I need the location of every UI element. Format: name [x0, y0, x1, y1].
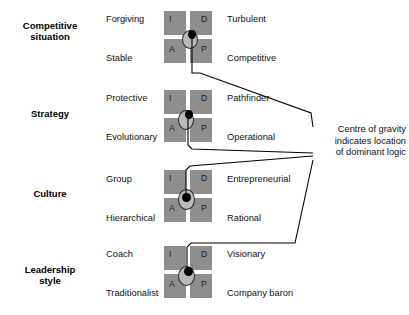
quadrant-label-p-row3: P — [201, 204, 207, 213]
pole-right-bottom-row2: Operational — [227, 132, 275, 143]
annotation-centre-of-gravity: Centre of gravity indicates location of … — [300, 124, 406, 159]
pole-right-top-row3: Entrepreneurial — [227, 174, 291, 185]
quadrant-label-a-row3: A — [169, 204, 175, 213]
centre-of-gravity-dot-row3 — [182, 193, 191, 202]
row-label-line1: Competitive — [2, 20, 98, 31]
quadrant-label-d-row4: D — [201, 250, 207, 259]
quadrant-label-a-row1: A — [169, 45, 175, 54]
row-label-competitive-situation: Competitive situation — [2, 20, 98, 42]
diagram-canvas: Competitive situation Forgiving Stable I… — [0, 0, 409, 315]
quadrant-label-d-row2: D — [201, 94, 207, 103]
quadrant-label-a-row4: A — [169, 280, 175, 289]
quadrant-label-p-row4: P — [201, 280, 207, 289]
pole-left-bottom-row2: Evolutionary — [106, 132, 157, 143]
pole-left-bottom-row3: Hierarchical — [106, 213, 155, 224]
pole-left-top-row2: Protective — [106, 93, 147, 104]
quadrant-label-d-row1: D — [201, 15, 207, 24]
annotation-line-1: Centre of gravity — [300, 124, 406, 136]
quadrant-label-d-row3: D — [201, 174, 207, 183]
row-label-culture: Culture — [2, 188, 98, 199]
pole-left-top-row1: Forgiving — [106, 14, 144, 25]
quadrant-label-a-row2: A — [169, 124, 175, 133]
quadrant-label-i-row2: I — [169, 94, 171, 103]
quadrant-square-row1: I D A P — [164, 11, 212, 63]
quadrant-label-p-row1: P — [201, 45, 207, 54]
pole-left-bottom-row1: Stable — [106, 53, 132, 64]
row-label-line1: Strategy — [2, 108, 98, 119]
pole-right-bottom-row4: Company baron — [227, 288, 293, 299]
annotation-line-2: indicates location — [300, 136, 406, 148]
pole-left-top-row3: Group — [106, 174, 132, 185]
row-label-line1: Leadership — [2, 264, 98, 275]
pole-right-top-row4: Visionary — [227, 249, 265, 260]
quadrant-label-i-row3: I — [169, 174, 171, 183]
centre-of-gravity-dot-row4 — [184, 267, 193, 276]
quadrant-label-i-row1: I — [169, 15, 171, 24]
centre-of-gravity-dot-row1 — [188, 30, 196, 39]
quadrant-label-i-row4: I — [169, 250, 171, 259]
quadrant-square-row3: I D A P — [164, 170, 212, 222]
pole-right-bottom-row3: Rational — [227, 213, 261, 224]
row-label-leadership-style: Leadership style — [2, 264, 98, 286]
quadrant-square-row2: I D A P — [164, 90, 212, 142]
pole-right-bottom-row1: Competitive — [227, 53, 276, 64]
quadrant-label-p-row2: P — [201, 124, 207, 133]
pole-right-top-row2: Pathfinder — [227, 93, 269, 104]
quadrant-square-row4: I D A P — [164, 246, 212, 298]
centre-of-gravity-dot-row2 — [185, 110, 193, 119]
annotation-line-3: of dominant logic — [300, 147, 406, 159]
pole-left-bottom-row4: Traditionalist — [106, 288, 158, 299]
row-label-strategy: Strategy — [2, 108, 98, 119]
pole-right-top-row1: Turbulent — [227, 14, 266, 25]
row-label-line2: situation — [2, 31, 98, 42]
pole-left-top-row4: Coach — [106, 249, 133, 260]
row-label-line2: style — [2, 275, 98, 286]
row-label-line1: Culture — [2, 188, 98, 199]
